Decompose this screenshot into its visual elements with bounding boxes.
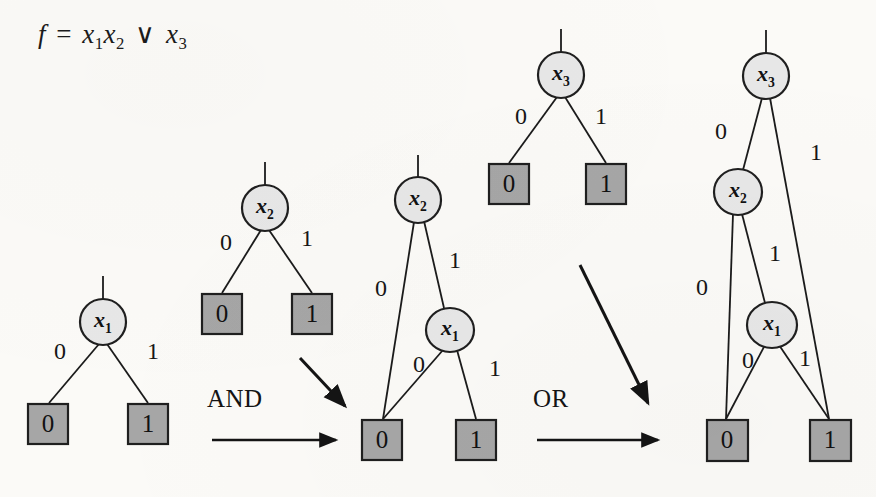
edge-label-low: 0 xyxy=(54,338,66,365)
edge-label-high: 1 xyxy=(147,338,159,365)
bdd-graphics-layer xyxy=(0,0,876,497)
terminal-label-0: 0 xyxy=(721,426,734,454)
edge-x3-low xyxy=(743,98,762,170)
edge-label-x1-low: 0 xyxy=(413,351,425,378)
and-diagonal-arrow xyxy=(300,358,345,406)
or-diagonal-arrow xyxy=(580,265,648,403)
node-label-x1: x1 xyxy=(94,307,112,336)
edge-x1-high xyxy=(457,350,476,419)
edge-label-high: 1 xyxy=(595,103,607,130)
terminal-label-0: 0 xyxy=(503,170,516,198)
terminal-label-1: 1 xyxy=(142,410,155,438)
edge-x1-high xyxy=(107,344,148,403)
edge-x2-high xyxy=(742,214,765,303)
edge-x2-high xyxy=(424,221,444,308)
edge-x2-low xyxy=(726,214,733,419)
node-label-x1: x1 xyxy=(441,315,459,344)
terminal-label-1: 1 xyxy=(306,300,319,328)
edge-label-x1-high: 1 xyxy=(799,345,811,372)
edge-label-x1-high: 1 xyxy=(489,355,501,382)
node-label-x2: x2 xyxy=(256,193,274,222)
terminal-label-1: 1 xyxy=(600,170,613,198)
terminal-label-1: 1 xyxy=(824,426,837,454)
edge-label-x3-low: 0 xyxy=(715,118,727,145)
edge-label-x2-high: 1 xyxy=(769,240,781,267)
edge-label-low: 0 xyxy=(515,103,527,130)
node-label-x3: x3 xyxy=(757,61,775,90)
edge-label-x2-high: 1 xyxy=(449,247,461,274)
edge-label-x1-low: 0 xyxy=(742,347,754,374)
edge-label-low: 0 xyxy=(220,229,232,256)
edge-label-x3-high: 1 xyxy=(810,139,822,166)
terminal-label-0: 0 xyxy=(376,426,389,454)
node-label-x2: x2 xyxy=(409,185,427,214)
terminal-label-1: 1 xyxy=(470,426,483,454)
edge-label-high: 1 xyxy=(301,225,313,252)
operation-label-or: OR xyxy=(533,385,569,413)
figure-canvas: f = x1x2 ∨ x3 xyxy=(0,0,876,497)
node-label-x3: x3 xyxy=(552,60,570,89)
node-label-x2: x2 xyxy=(729,177,747,206)
or-operation-arrows xyxy=(537,265,658,440)
edge-label-x2-low: 0 xyxy=(375,275,387,302)
terminal-label-0: 0 xyxy=(216,300,229,328)
edge-label-x2-low: 0 xyxy=(696,274,708,301)
node-label-x1: x1 xyxy=(763,310,781,339)
operation-label-and: AND xyxy=(207,385,263,413)
terminal-label-0: 0 xyxy=(42,410,55,438)
bdd-and-result-group xyxy=(362,155,496,460)
